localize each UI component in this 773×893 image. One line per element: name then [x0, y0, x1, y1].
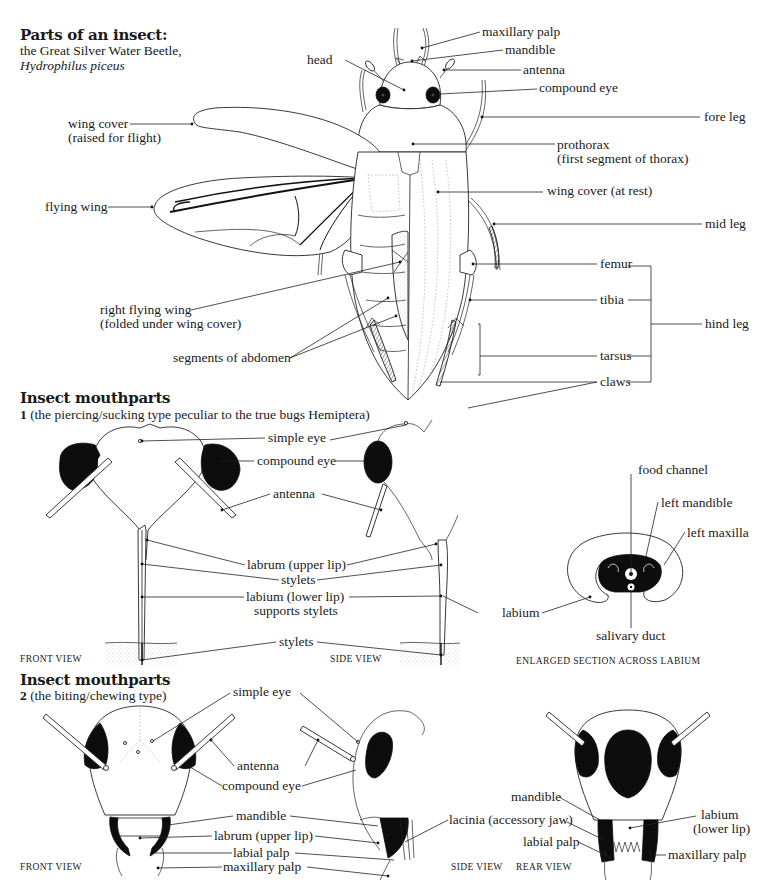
- label-mandible-2: mandible: [236, 808, 286, 823]
- label-food-channel: food channel: [638, 462, 708, 477]
- label-mandible: mandible: [505, 42, 555, 57]
- label-stylets-1: stylets: [281, 572, 316, 587]
- label-hind-leg: hind leg: [705, 316, 749, 331]
- section3-subtitle-text: (the biting/chewing type): [30, 688, 166, 703]
- label-rear-labium-note: (lower lip): [693, 821, 750, 836]
- label-mid-leg: mid leg: [705, 216, 746, 231]
- caption-side-view-1: SIDE VIEW: [330, 654, 382, 664]
- label-head: head: [307, 52, 332, 67]
- label-left-mandible: left mandible: [661, 495, 733, 510]
- label-antenna-2: antenna: [237, 758, 279, 773]
- label-segments-of-abdomen: segments of abdomen: [173, 350, 291, 365]
- label-rear-labium: labium: [701, 807, 739, 822]
- label-right-flying-wing: right flying wing: [100, 302, 192, 317]
- label-labium-1-note: supports stylets: [254, 603, 338, 618]
- hemiptera-front-view-drawing: [46, 424, 240, 665]
- label-maxillary-palp-2: maxillary palp: [223, 859, 301, 874]
- label-rear-mandible: mandible: [511, 789, 561, 804]
- label-compound-eye-1: compound eye: [257, 453, 336, 468]
- caption-front-view-2: FRONT VIEW: [20, 862, 82, 872]
- label-antenna: antenna: [523, 62, 565, 77]
- section3-subtitle: 2 (the biting/chewing type): [20, 688, 167, 703]
- section3-number: 2: [20, 688, 27, 703]
- hemiptera-side-view-drawing: [364, 420, 460, 665]
- label-prothorax-note: (first segment of thorax): [557, 151, 689, 166]
- label-antenna-1: antenna: [273, 486, 315, 501]
- label-right-flying-wing-note: (folded under wing cover): [100, 316, 241, 331]
- label-fore-leg: fore leg: [704, 109, 746, 124]
- label-lacinia: lacinia (accessory jaw): [449, 812, 573, 827]
- label-rear-labial-palp: labial palp: [523, 834, 580, 849]
- caption-side-view-2: SIDE VIEW: [451, 862, 503, 872]
- label-simple-eye-1: simple eye: [268, 430, 326, 445]
- section2-number: 1: [20, 407, 27, 422]
- label-wing-cover-raised: wing cover: [68, 116, 128, 131]
- section3-title: Insect mouthparts: [20, 672, 170, 689]
- section1-species-name: Hydrophilus piceus: [20, 58, 125, 73]
- label-compound-eye: compound eye: [539, 80, 618, 95]
- label-simple-eye-2: simple eye: [233, 684, 291, 699]
- label-flying-wing: flying wing: [45, 199, 108, 214]
- label-left-maxilla: left maxilla: [687, 525, 749, 540]
- label-wing-cover-raised-note: (raised for flight): [68, 130, 161, 145]
- label-labial-palp-2: labial palp: [233, 845, 290, 860]
- label-tibia: tibia: [600, 292, 624, 307]
- label-wing-cover-at-rest: wing cover (at rest): [547, 183, 652, 198]
- label-stylets-2: stylets: [279, 634, 314, 649]
- label-labrum-2: labrum (upper lip): [214, 828, 313, 843]
- label-claws: claws: [600, 374, 631, 389]
- label-maxillary-palp: maxillary palp: [482, 24, 560, 39]
- section2-title: Insect mouthparts: [20, 390, 170, 407]
- chewing-front-view-drawing: [43, 706, 235, 876]
- caption-enlarged-section: ENLARGED SECTION ACROSS LABIUM: [516, 656, 700, 666]
- label-labium-1: labium (lower lip): [246, 589, 344, 604]
- section2-subtitle: 1 (the piercing/sucking type peculiar to…: [20, 407, 370, 422]
- section1-title: Parts of an insect:: [20, 27, 167, 44]
- label-compound-eye-2: compound eye: [222, 778, 301, 793]
- label-rear-maxillary-palp: maxillary palp: [668, 847, 746, 862]
- section2-subtitle-text: (the piercing/sucking type peculiar to t…: [30, 407, 370, 422]
- caption-rear-view: REAR VIEW: [516, 862, 572, 872]
- label-tarsus: tarsus: [600, 348, 632, 363]
- caption-front-view-1: FRONT VIEW: [20, 654, 82, 664]
- section1-subtitle: the Great Silver Water Beetle,: [20, 43, 182, 58]
- label-labium-section: labium: [502, 605, 540, 620]
- label-femur: femur: [600, 256, 632, 271]
- label-salivary-duct: salivary duct: [596, 628, 665, 643]
- label-labrum-1: labrum (upper lip): [247, 557, 346, 572]
- label-prothorax: prothorax: [557, 137, 609, 152]
